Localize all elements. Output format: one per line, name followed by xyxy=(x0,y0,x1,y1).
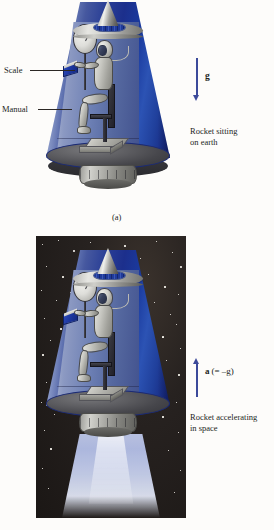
chair-backrest xyxy=(108,84,115,128)
gravity-vector-label: g xyxy=(205,70,210,83)
chair-leg xyxy=(103,366,107,390)
astronaut-visor xyxy=(98,45,107,56)
acceleration-vector-symbol: a xyxy=(205,366,210,376)
pedestal-front xyxy=(79,146,111,153)
physics-figure-equivalence-principle: Scale Manual g Rocket sitting on earth (… xyxy=(0,0,274,530)
chair-leg xyxy=(103,118,107,142)
chair-backrest xyxy=(108,332,115,376)
panel-a-description-line2: on earth xyxy=(190,137,218,148)
panel-b-space-scene xyxy=(36,236,186,518)
acceleration-vector-qualifier: (= –g) xyxy=(212,366,234,376)
panel-b-description-line1: Rocket accelerating xyxy=(190,412,257,423)
leader-line-manual xyxy=(38,109,72,110)
panel-b-description-line2: in space xyxy=(190,423,218,434)
acceleration-arrow-shaft xyxy=(196,363,198,397)
label-scale: Scale xyxy=(4,65,22,76)
rocket-panel-b xyxy=(46,250,170,450)
leader-line-scale xyxy=(30,70,75,71)
engine-nozzle xyxy=(84,427,131,437)
caption-panel-a: (a) xyxy=(112,212,121,222)
rocket-panel-a xyxy=(46,2,170,202)
astronaut-visor xyxy=(98,293,107,304)
chair-seat xyxy=(90,362,112,367)
pedestal-front xyxy=(79,394,111,401)
astronaut-boot xyxy=(77,374,91,382)
engine-ring-panels xyxy=(80,170,135,180)
engine-nozzle xyxy=(84,179,131,189)
engine-ring-panels xyxy=(80,418,135,428)
label-manual: Manual xyxy=(2,104,28,115)
acceleration-arrow-head-icon xyxy=(193,358,199,364)
astronaut-boot xyxy=(77,126,91,134)
acceleration-vector-label: a(= –g) xyxy=(205,366,234,378)
gravity-arrow-head-icon xyxy=(193,95,199,101)
gravity-arrow-shaft xyxy=(196,58,198,96)
panel-a-description-line1: Rocket sitting xyxy=(190,126,237,137)
chair-seat xyxy=(90,114,112,119)
